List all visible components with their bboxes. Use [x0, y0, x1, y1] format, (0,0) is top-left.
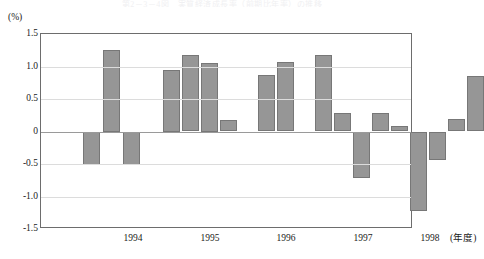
x-tick-label: 1998 [408, 233, 452, 244]
y-tick-label: -0.5 [4, 158, 38, 168]
bar [123, 132, 140, 166]
plot-area [40, 33, 412, 228]
bar [258, 75, 275, 132]
bar [372, 113, 389, 131]
bar [429, 132, 446, 161]
bar [448, 119, 465, 131]
bar [201, 63, 218, 131]
y-tick-label: 0.5 [4, 93, 38, 103]
bar [163, 70, 180, 132]
bars-layer [41, 34, 411, 227]
bar [83, 132, 100, 166]
bar [410, 132, 427, 211]
y-tick-label: 1.5 [4, 28, 38, 38]
bar [334, 113, 351, 131]
gridline [41, 67, 411, 68]
y-tick-label: 1.0 [4, 61, 38, 71]
y-axis-unit-label: (%) [8, 12, 22, 22]
x-tick-label: 1995 [188, 233, 232, 244]
x-axis-unit-label: (年度) [450, 233, 476, 244]
zero-line [41, 132, 411, 133]
bar [467, 76, 484, 132]
x-tick-label: 1996 [264, 233, 308, 244]
gridline [41, 197, 411, 198]
bar [103, 50, 120, 131]
y-tick-label: 0 [4, 126, 38, 136]
gridline [41, 99, 411, 100]
bar [353, 132, 370, 179]
x-tick-label: 1997 [341, 233, 385, 244]
bar [220, 120, 237, 132]
y-tick-label: -1.5 [4, 223, 38, 233]
bar [277, 62, 294, 132]
gridline [41, 164, 411, 165]
x-tick-label: 1994 [111, 233, 155, 244]
y-tick-label: -1.0 [4, 191, 38, 201]
